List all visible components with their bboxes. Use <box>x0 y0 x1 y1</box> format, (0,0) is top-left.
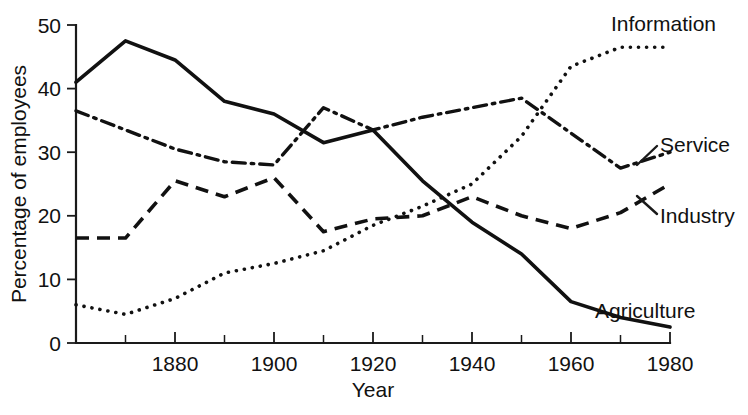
y-tick-label: 40 <box>38 77 61 100</box>
x-tick-label: 1980 <box>647 352 694 375</box>
x-tick-label: 1940 <box>449 352 496 375</box>
y-tick-label: 30 <box>38 141 61 164</box>
series-label-service: Service <box>660 133 730 156</box>
x-tick-label: 1960 <box>548 352 595 375</box>
x-tick-label: 1880 <box>152 352 199 375</box>
series-label-agriculture: Agriculture <box>595 299 695 322</box>
y-tick-label: 50 <box>38 14 61 37</box>
x-tick-label: 1900 <box>251 352 298 375</box>
chart-figure: 01020304050 188019001920194019601980 Inf… <box>0 0 748 415</box>
line-chart-canvas: 01020304050 188019001920194019601980 Inf… <box>0 0 748 415</box>
y-tick-label: 0 <box>49 332 61 355</box>
series-label-information: Information <box>611 12 716 35</box>
x-axis-title: Year <box>352 378 394 401</box>
y-tick-label: 10 <box>38 268 61 291</box>
y-axis-title: Percentage of employees <box>7 65 30 303</box>
y-tick-label: 20 <box>38 204 61 227</box>
series-label-industry: Industry <box>660 204 735 227</box>
x-tick-label: 1920 <box>350 352 397 375</box>
